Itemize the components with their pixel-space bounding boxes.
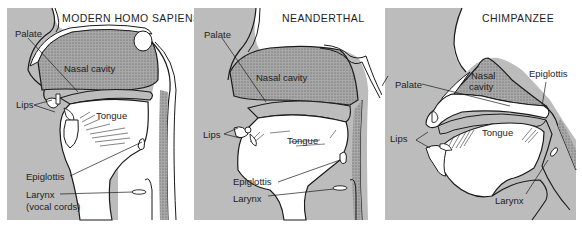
- label-palate: Palate: [204, 29, 231, 40]
- panel-title: MODERN HOMO SAPIENS: [62, 12, 200, 24]
- label-palate: Palate: [395, 79, 422, 90]
- label-tongue: Tongue: [96, 110, 127, 121]
- label-nasal-cavity: Nasal cavity: [64, 63, 115, 74]
- label-nasal-cavity-line2: cavity: [469, 81, 493, 92]
- panel-title: CHIMPANZEE: [482, 12, 554, 24]
- label-larynx-note: (vocal cords): [26, 201, 80, 212]
- label-lips: Lips: [203, 129, 220, 140]
- label-tongue: Tongue: [482, 127, 513, 138]
- label-larynx: Larynx: [233, 193, 262, 204]
- label-epiglottis: Epiglottis: [26, 171, 65, 182]
- panel-chimpanzee: CHIMPANZEE Palate Nasal cavity Epiglotti…: [382, 0, 582, 230]
- label-larynx: Larynx: [26, 189, 55, 200]
- panel-neanderthal: NEANDERTHAL Palate Nasal cavity Lips Ton…: [190, 0, 382, 230]
- label-palate: Palate: [15, 28, 42, 39]
- label-epiglottis: Epiglottis: [529, 68, 568, 79]
- label-lips: Lips: [16, 99, 33, 110]
- label-larynx: Larynx: [495, 195, 524, 206]
- label-tongue: Tongue: [287, 135, 318, 146]
- label-nasal-cavity-line1: Nasal: [471, 70, 495, 81]
- chimpanzee-vocal-tract-illustration: [382, 0, 582, 230]
- panel-title: NEANDERTHAL: [282, 12, 364, 24]
- label-epiglottis: Epiglottis: [233, 176, 272, 187]
- label-lips: Lips: [390, 133, 407, 144]
- label-nasal-cavity: Nasal cavity: [256, 72, 307, 83]
- panel-modern-homo-sapiens: MODERN HOMO SAPIENS Palate Nasal cavity …: [0, 0, 190, 230]
